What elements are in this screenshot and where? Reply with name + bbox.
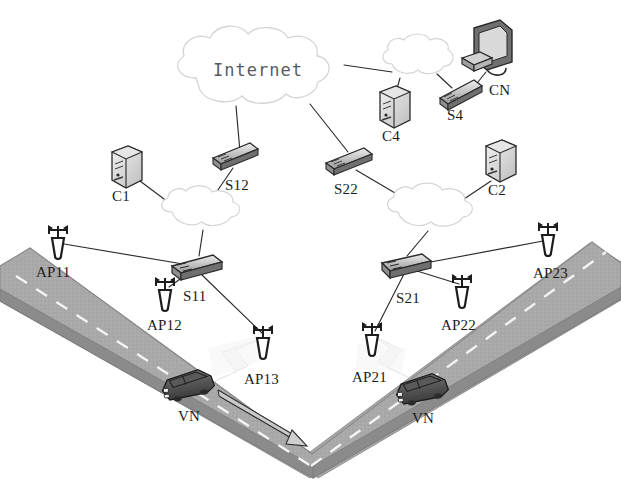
- device-switch-s21: [382, 254, 431, 278]
- link-s21-ap23: [420, 241, 543, 264]
- node-label-ap11: AP11: [36, 264, 70, 281]
- node-label-c1: C1: [112, 188, 130, 205]
- link-cloudright-s21: [407, 231, 428, 256]
- node-label-c2: C2: [488, 182, 506, 199]
- node-label-s12: S12: [225, 177, 249, 194]
- node-label-s4: S4: [447, 107, 463, 124]
- link-s11-ap13: [202, 275, 262, 333]
- device-switch-s4: [440, 80, 482, 110]
- node-label-ap13: AP13: [244, 371, 279, 388]
- device-server-c4: [380, 86, 410, 128]
- device-switch-s22: [326, 148, 372, 175]
- link-internet-s12: [236, 106, 240, 152]
- node-label-cn: CN: [489, 82, 510, 99]
- node-label-s11: S11: [183, 288, 206, 305]
- link-internet-cloudtr: [344, 65, 392, 72]
- node-label-ap21: AP21: [352, 369, 387, 386]
- cloud-top-right: [383, 34, 453, 73]
- device-switch-s12: [213, 143, 258, 170]
- node-label-c4: C4: [382, 128, 400, 145]
- node-label-ap12: AP12: [147, 317, 182, 334]
- network-diagram-canvas: Internet C1 C4 C2 CN S4 S12 S22 S11 S21 …: [0, 0, 621, 480]
- node-label-s21: S21: [396, 290, 420, 307]
- device-monitor-cn: [462, 20, 512, 75]
- network-links: [64, 65, 543, 333]
- node-label-ap22: AP22: [441, 317, 476, 334]
- node-label-vn2: VN: [412, 410, 434, 427]
- link-cloudleft-s11: [199, 230, 203, 256]
- node-label-s22: S22: [334, 181, 358, 198]
- device-antenna-ap23: [538, 222, 558, 256]
- device-antenna-ap11: [48, 225, 68, 259]
- link-internet-s22: [310, 104, 348, 152]
- device-switch-s11: [172, 255, 222, 280]
- cloud-label-internet: Internet: [213, 60, 303, 80]
- device-antenna-ap22: [452, 274, 472, 308]
- road-surface: [0, 242, 621, 478]
- device-server-c2: [486, 140, 516, 182]
- link-cloudtr-s4: [437, 74, 452, 88]
- node-label-vn1: VN: [178, 408, 200, 425]
- node-label-ap23: AP23: [533, 265, 568, 282]
- device-server-c1: [112, 146, 142, 188]
- diagram-svg: [0, 0, 621, 480]
- device-antenna-ap12: [155, 277, 175, 311]
- cloud-right: [388, 183, 473, 226]
- link-s11-ap11: [64, 244, 183, 264]
